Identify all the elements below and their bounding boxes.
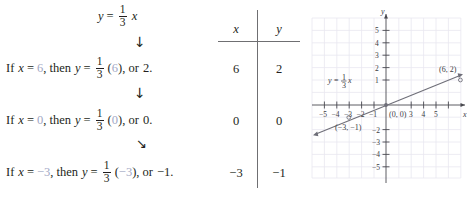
- y-tick-label-2: 2: [375, 64, 379, 73]
- step3-equals-2: =: [88, 165, 101, 180]
- step1-or: , or: [122, 61, 139, 76]
- derivation-column: y = 1 3 x ↓ ↓ ↘ If x = 6 , then y = 1 3: [0, 0, 215, 197]
- step1-result: 2.: [143, 61, 152, 76]
- step2-numerator: 1: [96, 108, 104, 120]
- x-tick-label--2: −2: [357, 110, 365, 119]
- point-0-0: [384, 103, 388, 107]
- table-cell-x-2: 0: [216, 114, 256, 129]
- down-arrow-1: ↓: [134, 35, 146, 49]
- step3-input-value: −3: [37, 165, 50, 180]
- line-label-variable: x: [347, 76, 352, 85]
- point-label-0-0: (0, 0): [389, 110, 407, 119]
- step2-equals: =: [24, 113, 37, 128]
- y-tick-label-5: 5: [375, 26, 379, 35]
- line-label-lhs: y: [327, 76, 332, 85]
- step3-denominator: 3: [103, 173, 111, 185]
- table-header-y: y: [259, 22, 299, 37]
- table-header-x: x: [216, 22, 256, 37]
- table-horizontal-rule: [218, 41, 300, 42]
- step2-prefix: If: [6, 113, 14, 128]
- graph-svg: y x −5 −4 −3 −2 −1 3 4 5 5 4 3 2 1 −2 −3…: [302, 0, 474, 197]
- substitution-step-2: If x = 0 , then y = 1 3 ( 0 ) , or 0.: [6, 108, 152, 134]
- diagonal-arrow-3: ↘: [136, 137, 147, 150]
- x-axis-label: x: [462, 110, 467, 119]
- values-table: x y 6 2 0 0 −3 −1: [216, 0, 302, 197]
- line-arrowhead-left: [313, 132, 318, 137]
- x-tick-label--5: −5: [319, 110, 327, 119]
- point-label-6-2: (6, 2): [439, 65, 457, 74]
- line-label-equals: =: [334, 76, 339, 85]
- step1-then: , then: [43, 61, 71, 76]
- step2-denominator: 3: [96, 121, 104, 133]
- table-cell-y-1: 2: [259, 62, 299, 77]
- step1-numerator: 1: [96, 56, 104, 68]
- x-tick-label-3: 3: [409, 110, 413, 119]
- step1-prefix: If: [6, 61, 14, 76]
- step3-prefix: If: [6, 165, 14, 180]
- y-tick-label-1: 1: [375, 76, 379, 85]
- down-arrow-2: ↓: [134, 86, 146, 100]
- y-tick-label-3: 3: [375, 51, 379, 60]
- line-equation-label: y = 1 3 x: [327, 73, 352, 91]
- step2-result: 0.: [143, 113, 152, 128]
- y-tick-label--2: −2: [372, 126, 380, 135]
- step3-then: , then: [50, 165, 78, 180]
- x-tick-label--1: −1: [369, 110, 377, 119]
- step1-equals: =: [24, 61, 37, 76]
- y-tick-label--4: −4: [372, 150, 380, 159]
- axes: [312, 14, 465, 183]
- y-tick-label--3: −3: [372, 138, 380, 147]
- step2-or: , or: [122, 113, 139, 128]
- coordinate-graph: y x −5 −4 −3 −2 −1 3 4 5 5 4 3 2 1 −2 −3…: [302, 0, 474, 197]
- headline-equals: =: [104, 9, 117, 24]
- headline-equation: y = 1 3 x: [98, 4, 137, 30]
- x-tick-label-5: 5: [434, 110, 438, 119]
- step3-result: −1.: [157, 165, 173, 180]
- line-label-denominator: 3: [342, 81, 346, 90]
- point-label-neg3-neg1: (−3, −1): [335, 123, 362, 132]
- x-axis-arrowhead: [461, 103, 466, 107]
- table-cell-y-2: 0: [259, 114, 299, 129]
- substitution-step-1: If x = 6 , then y = 1 3 ( 6 ) , or 2.: [6, 56, 152, 82]
- headline-numerator: 1: [119, 4, 127, 16]
- step1-equals-2: =: [81, 61, 94, 76]
- headline-fraction: 1 3: [119, 4, 127, 30]
- line-arrowhead-right: [458, 73, 463, 78]
- step3-numerator: 1: [103, 160, 111, 172]
- table-vertical-rule: [257, 10, 258, 188]
- substitution-step-3: If x = −3 , then y = 1 3 ( −3 ) , or −1.: [6, 160, 173, 186]
- table-cell-x-1: 6: [216, 62, 256, 77]
- step3-fraction: 1 3: [103, 160, 111, 186]
- step2-then: , then: [43, 113, 71, 128]
- headline-denominator: 3: [119, 17, 127, 29]
- step1-denominator: 3: [96, 69, 104, 81]
- step2-fraction: 1 3: [96, 108, 104, 134]
- step3-or: , or: [136, 165, 153, 180]
- x-tick-label--4: −4: [332, 110, 340, 119]
- headline-variable: x: [132, 9, 138, 24]
- step3-substituted-value: −3: [119, 165, 132, 180]
- figure-root: y = 1 3 x ↓ ↓ ↘ If x = 6 , then y = 1 3: [0, 0, 474, 197]
- table-cell-y-3: −1: [259, 166, 299, 181]
- x-tick-label--3: −3: [344, 110, 352, 119]
- y-axis-label: y: [380, 7, 385, 16]
- y-axis-arrowhead: [384, 14, 388, 19]
- step1-fraction: 1 3: [96, 56, 104, 82]
- table-cell-x-3: −3: [216, 166, 256, 181]
- y-tick-label-4: 4: [375, 39, 379, 48]
- step3-equals: =: [24, 165, 37, 180]
- step2-equals-2: =: [81, 113, 94, 128]
- x-tick-label-4: 4: [422, 110, 426, 119]
- y-tick-label--5: −5: [372, 163, 380, 172]
